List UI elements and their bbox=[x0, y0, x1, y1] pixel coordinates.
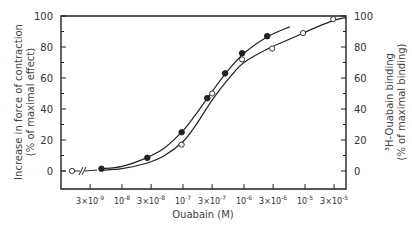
contraction-point bbox=[204, 95, 210, 101]
x-axis-title: Ouabain (M) bbox=[172, 209, 234, 220]
left-y-tick-label: 100 bbox=[34, 11, 53, 22]
x-tick-label: 3×10-5 bbox=[320, 194, 348, 206]
right-y-tick-label: 80 bbox=[354, 42, 367, 53]
left-y-tick-label: 20 bbox=[40, 135, 53, 146]
dose-response-chart: 020406080100 020406080100 3×10-910-83×10… bbox=[0, 0, 412, 229]
data-markers bbox=[69, 17, 335, 174]
contraction-point bbox=[239, 50, 245, 56]
contraction-curve bbox=[101, 27, 289, 169]
x-tick-label: 3×10-8 bbox=[137, 194, 165, 206]
binding-curve bbox=[101, 18, 346, 171]
fit-curves bbox=[61, 18, 346, 175]
contraction-point bbox=[179, 129, 185, 135]
binding-point bbox=[179, 142, 184, 147]
binding-point bbox=[210, 91, 215, 96]
contraction-point bbox=[222, 71, 228, 77]
binding-point bbox=[270, 46, 275, 51]
binding-point bbox=[331, 17, 336, 22]
left-y-tick-label: 0 bbox=[47, 166, 53, 177]
binding-point bbox=[300, 30, 305, 35]
left-y-axis-title: Increase in force of contraction (% of m… bbox=[13, 24, 36, 180]
plot-frame bbox=[61, 16, 346, 189]
contraction-point bbox=[145, 155, 151, 161]
right-y-axis-title: ³H-Ouabain binding (% of maximal binding… bbox=[384, 43, 407, 160]
left-y-tick-label: 60 bbox=[40, 73, 53, 84]
left-y-tick-label: 80 bbox=[40, 42, 53, 53]
right-y-tick-label: 0 bbox=[354, 166, 360, 177]
left-y-tick-label: 40 bbox=[40, 104, 53, 115]
x-tick-label: 10-8 bbox=[114, 194, 130, 206]
plot-border bbox=[61, 16, 346, 189]
x-tick-label: 3×10-9 bbox=[76, 194, 104, 206]
contraction-point bbox=[264, 33, 270, 39]
x-tick-label: 10-7 bbox=[175, 194, 191, 206]
right-y-axis-title-line2: (% of maximal binding) bbox=[396, 43, 407, 160]
left-y-axis-title-line1: Increase in force of contraction bbox=[13, 24, 24, 180]
binding-point bbox=[239, 57, 244, 62]
contraction-point bbox=[99, 166, 105, 172]
right-y-tick-label: 20 bbox=[354, 135, 367, 146]
left-y-axis-title-line2: (% of maximal effect) bbox=[25, 48, 36, 156]
break-connector bbox=[85, 170, 97, 171]
binding-control-point bbox=[69, 168, 74, 173]
x-tick-label: 10-5 bbox=[297, 194, 313, 206]
x-axis: 3×10-910-83×10-810-73×10-710-63×10-610-5… bbox=[76, 184, 348, 206]
x-tick-label: 3×10-7 bbox=[198, 194, 226, 206]
right-y-axis-title-line1: ³H-Ouabain binding bbox=[384, 53, 395, 151]
right-y-tick-label: 60 bbox=[354, 73, 367, 84]
x-tick-label: 3×10-6 bbox=[259, 194, 287, 206]
right-y-tick-label: 40 bbox=[354, 104, 367, 115]
x-tick-label: 10-6 bbox=[236, 194, 252, 206]
right-y-tick-label: 100 bbox=[354, 11, 373, 22]
